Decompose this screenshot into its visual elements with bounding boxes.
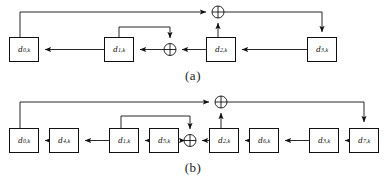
- register-subscript: 5,k: [163, 138, 170, 144]
- register-base-symbol: d: [218, 136, 223, 145]
- register-d2k-panel-a: d2,k: [206, 37, 236, 62]
- feedback-topxor-to-d7: [227, 102, 364, 122]
- register-base-symbol: d: [215, 45, 220, 54]
- register-base-symbol: d: [18, 45, 23, 54]
- register-base-symbol: d: [316, 45, 321, 54]
- register-subscript: 2,k: [220, 47, 227, 53]
- register-d3k-panel-a: d3,k: [307, 37, 337, 62]
- figure-canvas: [0, 0, 385, 183]
- feedback-d0-to-topxor: [20, 12, 206, 37]
- register-subscript: 4,k: [63, 138, 70, 144]
- xor-middle-a: [164, 44, 176, 56]
- register-subscript: 6,k: [263, 138, 270, 144]
- register-subscript: 0,k: [23, 138, 30, 144]
- register-base-symbol: d: [118, 136, 123, 145]
- caption-panel-b: (b): [153, 160, 233, 176]
- register-d0k-panel-a: d0,k: [9, 37, 39, 62]
- register-base-symbol: d: [113, 45, 118, 54]
- register-d6k-panel-b: d6,k: [249, 128, 279, 153]
- register-d4k-panel-b: d4,k: [49, 128, 79, 153]
- register-subscript: 2,k: [223, 138, 230, 144]
- register-base-symbol: d: [318, 136, 323, 145]
- register-base-symbol: d: [58, 136, 63, 145]
- register-subscript: 3,k: [321, 47, 328, 53]
- register-d0k-panel-b: d0,k: [9, 128, 39, 153]
- panel-a-outer-feedback: [20, 12, 322, 37]
- caption-panel-a: (a): [153, 68, 233, 84]
- register-base-symbol: d: [358, 136, 363, 145]
- register-base-symbol: d: [258, 136, 263, 145]
- xor-top-b: [215, 96, 227, 108]
- register-subscript: 7,k: [363, 138, 370, 144]
- register-base-symbol: d: [158, 136, 163, 145]
- xor-top-a: [212, 6, 224, 18]
- register-subscript: 3,k: [323, 138, 330, 144]
- register-subscript: 1,k: [118, 47, 125, 53]
- register-d1k-panel-a: d1,k: [104, 37, 134, 62]
- feedback-topxor-to-d3: [224, 12, 322, 32]
- register-d7k-panel-b: d7,k: [349, 128, 379, 153]
- register-d3k-panel-b: d3,k: [309, 128, 339, 153]
- panel-b-outer-feedback: [20, 102, 364, 128]
- register-base-symbol: d: [18, 136, 23, 145]
- register-d5k-panel-b: d5,k: [149, 128, 179, 153]
- xor-middle-b: [184, 135, 196, 147]
- panel-a: [20, 6, 322, 56]
- register-subscript: 1,k: [123, 138, 130, 144]
- register-d2k-panel-b: d2,k: [209, 128, 239, 153]
- register-subscript: 0,k: [23, 47, 30, 53]
- feedback-d0-to-topxor-b: [20, 102, 209, 128]
- register-d1k-panel-b: d1,k: [109, 128, 139, 153]
